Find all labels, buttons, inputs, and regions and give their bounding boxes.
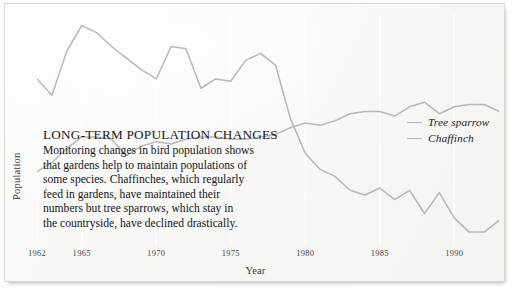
x-axis-ticks: 1962196519701975198019851990 bbox=[37, 248, 499, 264]
x-axis-label: Year bbox=[5, 265, 505, 276]
y-axis-label-text: Population bbox=[11, 90, 22, 200]
callout-headline: LONG-TERM POPULATION CHANGES bbox=[43, 126, 319, 143]
callout-line: Monitoring changes in bird population sh… bbox=[43, 144, 319, 159]
x-tick-label: 1962 bbox=[28, 248, 46, 258]
x-tick-label: 1965 bbox=[73, 248, 91, 258]
callout-text-block: LONG-TERM POPULATION CHANGES Monitoring … bbox=[43, 126, 319, 232]
legend-label: Chaffinch bbox=[428, 132, 474, 144]
legend-label: Tree sparrow bbox=[428, 116, 489, 128]
x-tick-label: 1985 bbox=[371, 248, 389, 258]
y-axis-label: Population bbox=[4, 3, 12, 96]
legend-item[interactable]: Chaffinch bbox=[407, 130, 505, 146]
x-tick-label: 1975 bbox=[222, 248, 240, 258]
legend: Tree sparrowChaffinch bbox=[407, 114, 505, 146]
legend-line-swatch bbox=[407, 138, 422, 139]
x-tick-label: 1990 bbox=[445, 248, 463, 258]
callout-body: Monitoring changes in bird population sh… bbox=[43, 144, 319, 232]
legend-item[interactable]: Tree sparrow bbox=[407, 114, 505, 130]
callout-line: feed in gardens, have maintained their bbox=[43, 188, 319, 203]
legend-line-swatch bbox=[407, 122, 422, 123]
callout-line: some species. Chaffinches, which regular… bbox=[43, 173, 319, 188]
callout-line: numbers but tree sparrows, which stay in bbox=[43, 202, 319, 217]
callout-line: that gardens help to maintain population… bbox=[43, 159, 319, 174]
x-tick-label: 1980 bbox=[296, 248, 314, 258]
chart-figure: Population 1962196519701975198019851990 … bbox=[4, 3, 505, 282]
x-tick-label: 1970 bbox=[147, 248, 165, 258]
callout-line: the countryside, have declined drastical… bbox=[43, 217, 319, 232]
